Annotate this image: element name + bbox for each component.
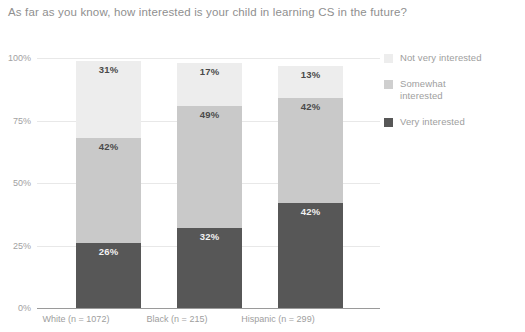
bar-segment-label: 42% <box>278 206 343 217</box>
bar-segment-very-interested[interactable]: 42% <box>278 203 343 308</box>
bar-stack-white[interactable]: 31% 42% 26% <box>76 58 141 308</box>
legend-item-somewhat-interested[interactable]: Somewhat interested <box>384 78 525 103</box>
bar-segment-label: 26% <box>76 246 141 257</box>
chart-legend: Not very interested Somewhat interested … <box>384 52 525 141</box>
bar-segment-label: 42% <box>76 141 141 152</box>
plot-area: 100% 75% 50% 25% 0% 31% 42% 26% 17% 49% … <box>37 58 380 308</box>
y-tick-75: 75% <box>13 116 31 126</box>
bar-segment-label: 13% <box>278 69 343 80</box>
x-tick-hispanic: Hispanic (n = 299) <box>218 314 338 324</box>
legend-label: Somewhat interested <box>400 78 446 103</box>
bar-stack-hispanic[interactable]: 13% 42% 42% <box>278 58 343 308</box>
bar-segment-label: 42% <box>278 101 343 112</box>
y-tick-100: 100% <box>8 53 31 63</box>
bar-segment-label: 31% <box>76 64 141 75</box>
legend-swatch-icon <box>384 80 393 89</box>
bar-segment-label: 32% <box>177 231 242 242</box>
y-tick-50: 50% <box>13 178 31 188</box>
bar-segment-not-very-interested[interactable]: 17% <box>177 63 242 106</box>
y-tick-25: 25% <box>13 241 31 251</box>
bar-segment-label: 17% <box>177 66 242 77</box>
bar-segment-somewhat-interested[interactable]: 42% <box>278 98 343 203</box>
bar-segment-not-very-interested[interactable]: 13% <box>278 66 343 99</box>
bar-segment-somewhat-interested[interactable]: 42% <box>76 138 141 243</box>
chart-title: As far as you know, how interested is yo… <box>8 6 508 18</box>
bar-segment-somewhat-interested[interactable]: 49% <box>177 106 242 229</box>
bar-segment-label: 49% <box>177 109 242 120</box>
legend-label: Not very interested <box>400 52 482 65</box>
x-axis-line: 0% <box>37 308 380 309</box>
legend-item-very-interested[interactable]: Very interested <box>384 116 525 129</box>
legend-swatch-icon <box>384 118 393 127</box>
bar-stack-black[interactable]: 17% 49% 32% <box>177 58 242 308</box>
bar-segment-not-very-interested[interactable]: 31% <box>76 61 141 139</box>
legend-item-not-very-interested[interactable]: Not very interested <box>384 52 525 65</box>
y-tick-0: 0% <box>18 303 31 313</box>
bar-segment-very-interested[interactable]: 26% <box>76 243 141 308</box>
legend-label: Very interested <box>400 116 465 129</box>
legend-swatch-icon <box>384 54 393 63</box>
bar-segment-very-interested[interactable]: 32% <box>177 228 242 308</box>
